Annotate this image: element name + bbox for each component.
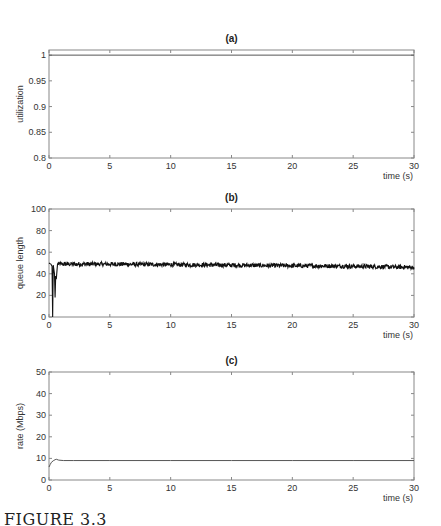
y-tick-label: 0.8 <box>33 153 46 163</box>
x-tick-label: 5 <box>107 483 112 493</box>
y-tick-label: 100 <box>31 204 46 214</box>
y-tick-label: 0 <box>41 312 46 322</box>
y-tick-label: 80 <box>36 226 46 236</box>
y-tick-label: 20 <box>36 432 46 442</box>
y-axis-label: rate (Mbps) <box>15 403 25 449</box>
x-tick-label: 5 <box>107 320 112 330</box>
x-tick-label: 30 <box>409 161 419 171</box>
x-tick-label: 20 <box>287 483 297 493</box>
y-tick-label: 0.95 <box>28 76 46 86</box>
chart-panel-queue-length: (b)051015202530020406080100time (s)queue… <box>15 192 419 340</box>
x-tick-label: 25 <box>348 483 358 493</box>
x-tick-label: 0 <box>46 161 51 171</box>
y-tick-label: 0 <box>41 475 46 485</box>
chart-title: (b) <box>225 192 238 203</box>
y-tick-label: 40 <box>36 389 46 399</box>
chart-panel-utilization: (a)0510152025300.80.850.90.951time (s)ut… <box>15 33 419 181</box>
x-axis-label: time (s) <box>383 493 413 503</box>
plot-area-frame <box>49 372 414 480</box>
x-axis-label: time (s) <box>383 330 413 340</box>
y-axis-label: queue length <box>15 237 25 289</box>
figure-caption: FIGURE 3.3 <box>4 510 107 526</box>
x-tick-label: 30 <box>409 483 419 493</box>
x-tick-label: 20 <box>287 161 297 171</box>
x-tick-label: 10 <box>166 483 176 493</box>
chart-title: (a) <box>225 33 237 44</box>
y-tick-label: 0.85 <box>28 127 46 137</box>
x-tick-label: 30 <box>409 320 419 330</box>
y-tick-label: 50 <box>36 367 46 377</box>
x-tick-label: 15 <box>226 320 236 330</box>
chart-title: (c) <box>225 355 237 366</box>
series-line-queue-length <box>49 262 414 317</box>
y-tick-label: 10 <box>36 453 46 463</box>
x-tick-label: 25 <box>348 320 358 330</box>
x-tick-label: 10 <box>166 161 176 171</box>
x-tick-label: 0 <box>46 320 51 330</box>
x-tick-label: 25 <box>348 161 358 171</box>
x-tick-label: 10 <box>166 320 176 330</box>
x-tick-label: 15 <box>226 161 236 171</box>
series-line-rate <box>49 459 414 467</box>
x-tick-label: 15 <box>226 483 236 493</box>
x-tick-label: 0 <box>46 483 51 493</box>
y-axis-label: utilization <box>15 85 25 123</box>
y-tick-label: 0.9 <box>33 102 46 112</box>
y-tick-label: 40 <box>36 269 46 279</box>
y-tick-label: 30 <box>36 410 46 420</box>
y-tick-label: 20 <box>36 290 46 300</box>
plot-area-frame <box>49 50 414 158</box>
figure: (a)0510152025300.80.850.90.951time (s)ut… <box>0 0 441 526</box>
x-tick-label: 5 <box>107 161 112 171</box>
chart-panel-rate: (c)05101520253001020304050time (s)rate (… <box>15 355 419 503</box>
x-tick-label: 20 <box>287 320 297 330</box>
y-tick-label: 60 <box>36 247 46 257</box>
y-tick-label: 1 <box>41 50 46 60</box>
x-axis-label: time (s) <box>383 171 413 181</box>
